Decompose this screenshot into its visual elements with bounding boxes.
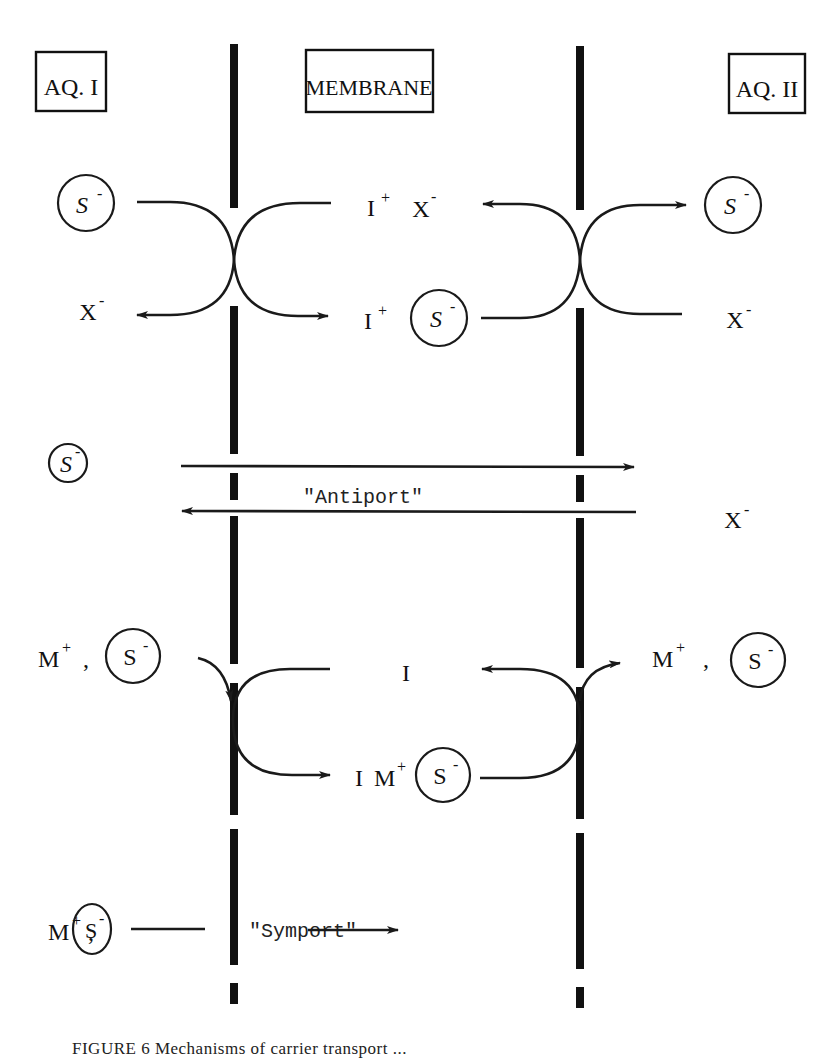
svg-text:-: - [746,301,751,318]
svg-text:X: X [726,307,743,333]
antiport-label: "Antiport" [303,486,423,509]
counter-anion-aq2-antiport: X - [724,501,749,533]
svg-text:AQ. I: AQ. I [44,74,99,100]
header-membrane: MEMBRANE [305,50,433,112]
svg-text:-: - [143,637,148,654]
symport-label: "Symport" [249,920,357,943]
svg-text:-: - [450,298,455,315]
svg-text:S: S [60,451,72,477]
svg-text:+: + [62,639,71,656]
carrier-ion-pair-complex: I M + S - [355,748,470,802]
antiport-summary-section: S - "Antiport" X - [49,443,749,533]
left-membrane-boundary [230,44,238,1004]
svg-text:MEMBRANE: MEMBRANE [305,75,432,100]
svg-text:+: + [381,189,390,206]
ion-pair-aq1-symport-summary: M + , S - [48,904,111,954]
svg-text:-: - [99,910,104,927]
substrate-anion-aq1-antiport: S - [49,443,87,482]
carrier-complex-top: I + X - [367,188,436,222]
counter-anion-aq1: X - [79,292,104,325]
svg-text:S: S [433,763,446,789]
svg-text:S: S [76,192,88,218]
svg-text:M: M [38,646,59,672]
svg-text:M: M [48,919,69,945]
svg-text:S: S [748,648,761,674]
svg-text:I: I [355,765,363,791]
svg-text:S: S [724,193,736,219]
carrier-complex-bottom: I + S - [364,290,467,346]
header-aq2: AQ. II [729,54,805,113]
svg-text:+: + [378,302,387,319]
svg-text:-: - [744,185,749,202]
ion-pair-aq2-symport: M + , S - [652,633,785,687]
figure-caption: FIGURE 6 Mechanisms of carrier transport… [72,1039,407,1059]
svg-text:-: - [453,756,458,773]
svg-text:-: - [75,443,80,460]
svg-text:-: - [744,501,749,518]
substrate-anion-aq2-top: S - [705,177,761,233]
svg-text:I: I [364,308,372,334]
svg-text:S: S [123,644,136,670]
svg-text:-: - [97,185,102,202]
svg-text:I: I [367,195,375,221]
svg-text:S: S [430,306,442,332]
header-aq1: AQ. I [36,52,106,111]
svg-text:+: + [676,639,685,656]
ion-pair-aq1-symport: M + , S - [38,629,160,683]
svg-text:-: - [768,641,773,658]
carrier-symport-section: M + , S - I I M + S - M + , [38,629,785,802]
svg-text:,: , [703,646,709,672]
svg-text:M: M [652,646,673,672]
carrier-antiport-section: S - X - I + X - I + S - [58,175,761,346]
svg-text:AQ. II: AQ. II [736,76,799,102]
svg-text:,: , [83,646,89,672]
svg-text:S: S [85,918,97,943]
counter-anion-aq2-top: X - [726,301,751,333]
svg-text:+: + [397,758,406,775]
svg-text:X: X [412,196,429,222]
svg-text:-: - [431,188,436,205]
right-membrane-boundary [576,46,584,1008]
svg-text:-: - [99,292,104,309]
substrate-anion-aq1-top: S - [58,175,114,231]
free-carrier: I [402,660,410,686]
svg-text:X: X [79,299,96,325]
svg-text:M: M [374,765,395,791]
symport-summary-section: M + , S - "Symport" [48,904,398,954]
svg-text:X: X [724,507,741,533]
